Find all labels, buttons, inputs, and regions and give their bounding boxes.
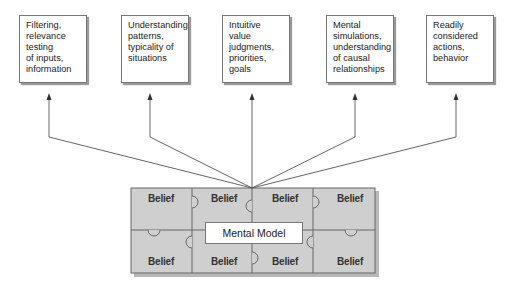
box-line: behavior [433,53,489,64]
belief-label: Belief [337,193,363,204]
box-readily-considered: Readily considered actions, behavior [426,15,494,83]
box-line: judgments, [229,42,285,53]
box-mental-simulations: Mental simulations, understanding of cau… [326,15,394,83]
box-line: of causal [333,53,389,64]
box-intuitive-value: Intuitive value judgments, priorities, g… [222,15,290,83]
belief-label: Belief [211,193,237,204]
box-line: typicality of [128,42,184,53]
box-filtering: Filtering, relevance testing of inputs, … [19,15,87,83]
belief-label: Belief [148,193,174,204]
box-line: simulations, [333,31,389,42]
belief-label: Belief [148,256,174,267]
box-line: Understanding [128,20,184,31]
box-line: Filtering, [26,20,82,31]
box-understanding-patterns: Understanding patterns, typicality of si… [121,15,189,83]
box-line: relevance [26,31,82,42]
box-line: testing [26,42,82,53]
box-line: relationships [333,64,389,75]
arrows [49,97,456,188]
mental-model-label: Mental Model [205,222,303,244]
belief-label: Belief [337,256,363,267]
box-line: priorities, goals [229,53,285,75]
box-line: actions, [433,42,489,53]
box-line: considered [433,31,489,42]
belief-label: Belief [272,256,298,267]
box-line: information [26,64,82,75]
box-line: understanding [333,42,389,53]
box-line: Readily [433,20,489,31]
box-line: Intuitive value [229,20,285,42]
box-line: patterns, [128,31,184,42]
belief-label: Belief [272,193,298,204]
belief-label: Belief [211,256,237,267]
box-line: Mental [333,20,389,31]
box-line: situations [128,53,184,64]
box-line: of inputs, [26,53,82,64]
arrowheads [47,93,459,100]
